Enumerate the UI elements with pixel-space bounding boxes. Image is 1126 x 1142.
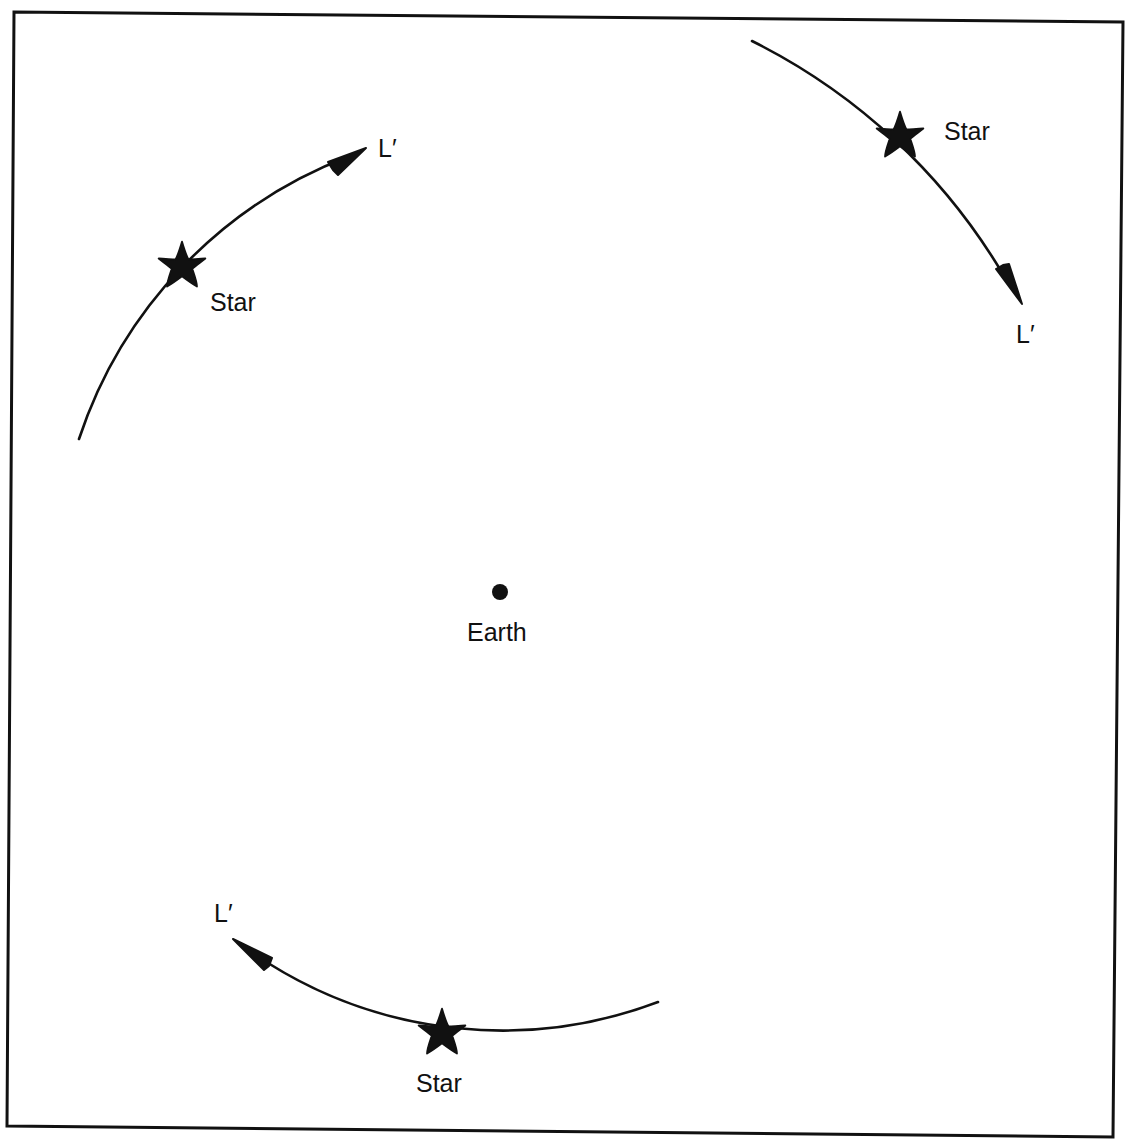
star-bottom-icon: [419, 1009, 466, 1054]
star-top-left-icon: [159, 242, 206, 287]
lprime-label-top-left: L′: [378, 136, 397, 161]
arrowhead-bottom-icon: [233, 939, 272, 970]
star-label-top-left: Star: [210, 290, 256, 315]
arc-path-bottom: [268, 963, 658, 1031]
earth-label: Earth: [467, 620, 527, 645]
lprime-label-bottom: L′: [214, 901, 233, 926]
star-label-top-right: Star: [944, 119, 990, 144]
arrowhead-top-right-icon: [996, 264, 1022, 304]
star-label-bottom: Star: [416, 1071, 462, 1096]
star-top-right-icon: [877, 112, 924, 157]
arc-top-right: [752, 41, 1022, 304]
diagram-canvas: [0, 0, 1126, 1142]
arc-path-top-right: [752, 41, 1004, 276]
arc-bottom: [233, 939, 658, 1054]
lprime-label-top-right: L′: [1016, 322, 1035, 347]
diagram-frame: [7, 12, 1123, 1137]
earth-dot-icon: [492, 584, 508, 600]
arrowhead-top-left-icon: [328, 148, 366, 175]
